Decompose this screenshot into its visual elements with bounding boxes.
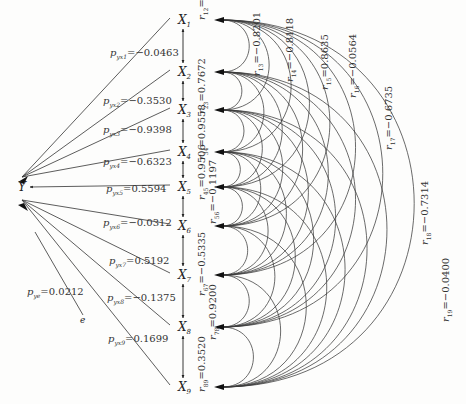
arc-arrowhead-icon <box>214 69 224 75</box>
correlation-arc-x8-x9 <box>222 327 253 387</box>
factor-node-x4: X4 <box>177 145 191 161</box>
correlation-label-r56: r56=−0.1197 <box>207 160 220 224</box>
correlation-arc-x5-x6 <box>222 187 242 226</box>
factor-node-x2: X2 <box>177 65 192 81</box>
residual-path-line <box>35 232 83 315</box>
arc-arrowhead-icon <box>214 384 224 390</box>
factor-node-x9: X9 <box>177 380 192 396</box>
factor-node-x8: X8 <box>177 320 192 336</box>
diagram-svg: X1X2X3X4X5X6X7X8X9Ye pyx1=−0.0463pyx2=−0… <box>0 0 466 404</box>
correlation-arc-x1-x5 <box>222 20 309 187</box>
path-diagram: X1X2X3X4X5X6X7X8X9Ye pyx1=−0.0463pyx2=−0… <box>0 0 466 404</box>
correlation-arc-x1-x2 <box>222 20 249 72</box>
correlation-label-r15: r15=0.8635 <box>319 34 332 90</box>
path-coefficient-pyx7: pyx7=0.5192 <box>109 255 169 269</box>
path-coefficient-pye: pye=0.0212 <box>27 286 84 300</box>
factor-node-x5: X5 <box>177 180 192 196</box>
correlation-arcs <box>214 17 414 390</box>
correlation-arc-x7-x9 <box>222 275 281 387</box>
dependent-node-y: Y <box>18 180 27 194</box>
path-lines <box>18 18 170 385</box>
residual-node-e: e <box>80 315 85 325</box>
correlation-label-r14: r14=−0.8118 <box>284 18 297 82</box>
correlation-label-r89: r89=0.3520 <box>196 336 209 392</box>
path-coefficient-pyx3: pyx3=−0.9398 <box>103 124 172 138</box>
factor-node-x6: X6 <box>177 219 192 235</box>
path-coefficient-pyx1: pyx1=−0.0463 <box>110 47 179 61</box>
correlation-arc-x2-x9 <box>222 72 387 387</box>
path-coefficient-pyx5: pyx5=0.5594 <box>106 183 166 197</box>
correlation-label-r18: r18=−0.7314 <box>419 181 432 245</box>
correlation-arc-x4-x9 <box>222 152 345 387</box>
correlation-arc-x2-x5 <box>222 72 282 187</box>
correlation-label-r12: r12=0.6727 <box>196 0 209 20</box>
path-coefficient-pyx4: pyx4=−0.6323 <box>103 156 172 170</box>
path-coefficient-pyx8: pyx8=−0.1375 <box>107 292 176 306</box>
correlation-arc-x3-x4 <box>222 110 244 152</box>
path-coefficient-pyx2: pyx2=−0.3530 <box>103 95 172 109</box>
correlation-arc-x3-x7 <box>222 110 308 275</box>
arc-arrowhead-icon <box>214 17 224 23</box>
correlation-label-r78: r78=0.9200 <box>207 284 220 340</box>
correlation-arc-x4-x5 <box>222 152 240 187</box>
correlation-label-r16: r16=−0.0564 <box>347 34 360 98</box>
arc-arrowhead-icon <box>214 272 224 278</box>
arc-arrowhead-icon <box>214 149 224 155</box>
correlation-arc-x2-x8 <box>222 72 356 327</box>
correlation-label-r19: r19=−0.0400 <box>440 258 453 322</box>
factor-node-x3: X3 <box>177 103 192 119</box>
correlation-arc-x6-x7 <box>222 226 248 275</box>
correlation-arc-x1-x6 <box>222 20 330 226</box>
correlation-arc-x7-x8 <box>222 275 249 327</box>
arc-arrowhead-icon <box>214 107 224 113</box>
path-coefficient-pyx6: pyx6=−0.0312 <box>103 217 172 231</box>
correlation-arc-x3-x6 <box>222 110 283 226</box>
correlation-arc-x2-x3 <box>222 72 242 110</box>
factor-node-x1: X1 <box>177 13 191 29</box>
correlation-label-r13: r13=−0.8201 <box>251 12 264 76</box>
correlation-arc-x4-x8 <box>222 152 314 327</box>
factor-node-x7: X7 <box>177 268 192 284</box>
